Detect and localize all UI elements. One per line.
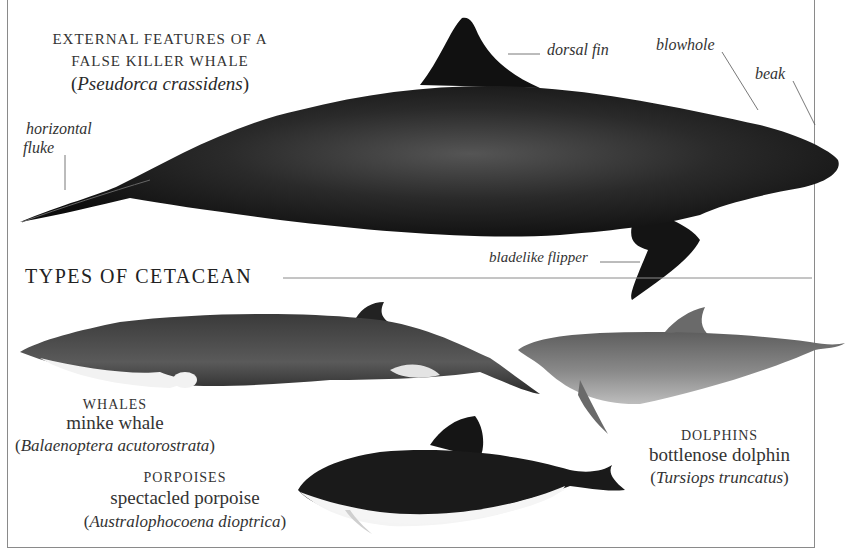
section-title: TYPES OF CETACEAN xyxy=(25,265,252,288)
label-horizontal-fluke-2: fluke xyxy=(23,139,54,157)
porpoises-group-label: PORPOISES xyxy=(70,470,300,486)
dolphin-scientific-name: (Tursiops truncatus) xyxy=(632,468,807,488)
label-bladelike-flipper: bladelike flipper xyxy=(489,249,588,266)
minke-whale-illustration xyxy=(20,302,540,394)
porpoise-common-name: spectacled porpoise xyxy=(70,487,300,509)
spectacled-porpoise-illustration xyxy=(298,416,625,534)
minke-scientific-name: (Balaenoptera acutorostrata) xyxy=(0,436,230,456)
porpoise-scientific-name: (Australophocoena dioptrica) xyxy=(70,512,300,532)
minke-common-name: minke whale xyxy=(0,412,230,434)
label-blowhole: blowhole xyxy=(656,36,715,54)
dolphin-common-name: bottlenose dolphin xyxy=(632,444,807,466)
feature-title-line1: EXTERNAL FEATURES OF A xyxy=(30,31,290,48)
bottlenose-dolphin-illustration xyxy=(518,307,845,434)
feature-scientific-name: (Pseudorca crassidens) xyxy=(30,73,290,95)
whales-group-label: WHALES xyxy=(0,397,230,413)
label-beak: beak xyxy=(755,65,785,83)
label-dorsal-fin: dorsal fin xyxy=(547,41,609,59)
feature-title-line2: FALSE KILLER WHALE xyxy=(30,53,290,70)
label-horizontal-fluke-1: horizontal xyxy=(26,120,92,138)
dolphins-group-label: DOLPHINS xyxy=(632,428,807,444)
